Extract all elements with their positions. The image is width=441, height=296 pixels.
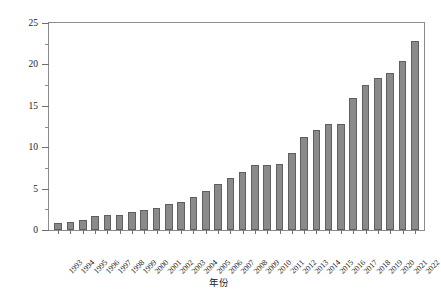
x-tick-mark — [157, 230, 158, 234]
y-tick-label: 20 — [29, 59, 39, 69]
bar — [263, 165, 271, 230]
y-tick-mark — [42, 106, 49, 107]
bar-slot — [273, 23, 285, 230]
bar-slot — [187, 23, 199, 230]
bar — [54, 223, 62, 230]
bar — [374, 78, 382, 230]
bar-slot — [138, 23, 150, 230]
bar — [140, 210, 148, 230]
bar — [300, 137, 308, 230]
bar-slot — [347, 23, 359, 230]
bar-slot — [200, 23, 212, 230]
y-minor-tick — [45, 209, 49, 210]
bar-slot — [249, 23, 261, 230]
y-axis-title: 建筑固废年产生量/亿t — [0, 0, 18, 296]
x-tick-mark — [316, 230, 317, 234]
bar — [362, 85, 370, 230]
x-tick-mark — [378, 230, 379, 234]
x-tick-mark — [403, 230, 404, 234]
y-tick-mark — [42, 64, 49, 65]
bar-slot — [64, 23, 76, 230]
bar — [116, 215, 124, 230]
bar — [190, 197, 198, 230]
x-tick-mark — [390, 230, 391, 234]
bar — [349, 98, 357, 230]
bar-slot — [163, 23, 175, 230]
x-tick-mark — [70, 230, 71, 234]
x-tick-mark — [329, 230, 330, 234]
x-tick-mark — [243, 230, 244, 234]
x-tick-mark — [304, 230, 305, 234]
bar-slot — [224, 23, 236, 230]
x-axis-title-text: 年份 — [209, 278, 229, 288]
bar — [128, 212, 136, 230]
bar — [411, 41, 419, 230]
bar — [202, 191, 210, 230]
x-tick-mark — [181, 230, 182, 234]
bar — [91, 216, 99, 230]
bar — [276, 164, 284, 230]
x-axis-title: 年份 — [0, 275, 438, 289]
x-tick-mark — [230, 230, 231, 234]
x-tick-mark — [144, 230, 145, 234]
bar-slot — [409, 23, 421, 230]
x-tick-mark — [415, 230, 416, 234]
bar-slot — [261, 23, 273, 230]
bar-slot — [175, 23, 187, 230]
bar — [288, 153, 296, 230]
x-tick-mark — [267, 230, 268, 234]
bar-slot — [126, 23, 138, 230]
x-tick-mark — [58, 230, 59, 234]
bar-series — [49, 23, 424, 230]
bar — [67, 222, 75, 230]
y-tick-label: 25 — [29, 18, 39, 28]
bar-slot — [150, 23, 162, 230]
x-tick-mark — [206, 230, 207, 234]
y-minor-tick — [45, 168, 49, 169]
bar — [165, 204, 173, 230]
y-minor-tick — [45, 44, 49, 45]
x-tick-mark — [120, 230, 121, 234]
bar — [399, 61, 407, 230]
y-tick-mark — [42, 230, 49, 231]
bar-slot — [77, 23, 89, 230]
bar — [104, 215, 112, 230]
x-tick-mark — [366, 230, 367, 234]
x-tick-mark — [341, 230, 342, 234]
x-tick-mark — [169, 230, 170, 234]
bar-slot — [372, 23, 384, 230]
x-tick-mark — [280, 230, 281, 234]
x-tick-mark — [255, 230, 256, 234]
x-tick-mark — [107, 230, 108, 234]
bar-slot — [113, 23, 125, 230]
bar — [251, 165, 259, 230]
y-minor-tick — [45, 127, 49, 128]
y-tick-label: 15 — [29, 101, 39, 111]
bar — [386, 73, 394, 230]
bar — [239, 172, 247, 230]
y-tick-mark — [42, 189, 49, 190]
x-tick-mark — [353, 230, 354, 234]
y-tick-label: 10 — [29, 142, 39, 152]
y-tick-mark — [42, 23, 49, 24]
bar-slot — [323, 23, 335, 230]
bar-slot — [52, 23, 64, 230]
bar — [214, 184, 222, 230]
bar-slot — [298, 23, 310, 230]
x-tick-mark — [132, 230, 133, 234]
x-tick-mark — [83, 230, 84, 234]
x-tick-mark — [95, 230, 96, 234]
x-tick-mark — [292, 230, 293, 234]
bar — [227, 178, 235, 230]
x-tick-mark — [218, 230, 219, 234]
y-tick-label: 5 — [33, 184, 38, 194]
bar — [153, 208, 161, 230]
y-tick-label: 0 — [33, 225, 38, 235]
bar — [79, 220, 87, 230]
bar-slot — [236, 23, 248, 230]
bar-slot — [212, 23, 224, 230]
bar-slot — [89, 23, 101, 230]
bar — [177, 202, 185, 230]
bar-slot — [310, 23, 322, 230]
